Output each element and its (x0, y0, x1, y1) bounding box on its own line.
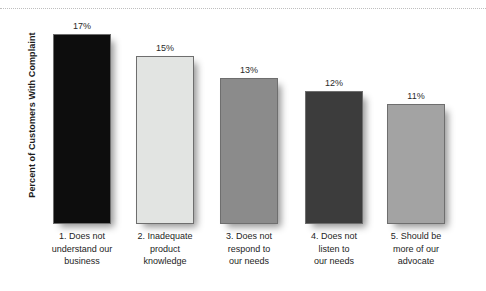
bar-group: 15% (136, 56, 194, 224)
bar-rect[interactable] (53, 34, 111, 224)
x-axis-labels: 1. Does not understand our business 2. I… (36, 230, 478, 288)
x-axis-label-1: 1. Does not understand our business (40, 230, 124, 268)
x-axis-label-line: our needs (292, 255, 376, 268)
bar-value-label: 11% (387, 91, 445, 104)
bar-chart: Percent of Customers With Complaint 17% … (0, 0, 486, 291)
x-axis-label-line: advocate (374, 255, 458, 268)
x-axis-label-line: 1. Does not (40, 230, 124, 243)
x-axis-label-5: 5. Should be more of our advocate (374, 230, 458, 268)
x-axis-label-line: knowledge (123, 255, 207, 268)
bar-group: 11% (387, 104, 445, 224)
bar-group: 13% (220, 78, 278, 224)
bar-rect[interactable] (136, 56, 194, 224)
bar-value-label: 12% (305, 78, 363, 91)
x-axis-label-line: listen to (292, 243, 376, 256)
x-axis-label-line: 3. Does not (207, 230, 291, 243)
x-axis-label-line: product (123, 243, 207, 256)
bar-value-label: 15% (136, 43, 194, 56)
x-axis-label-line: business (40, 255, 124, 268)
top-dotted-rule (0, 8, 486, 9)
x-axis-label-4: 4. Does not listen to our needs (292, 230, 376, 268)
bar-value-label: 13% (220, 65, 278, 78)
x-axis-label-line: 2. Inadequate (123, 230, 207, 243)
x-axis-label-3: 3. Does not respond to our needs (207, 230, 291, 268)
x-axis-label-line: 5. Should be (374, 230, 458, 243)
bar-group: 12% (305, 91, 363, 224)
bar-rect[interactable] (305, 91, 363, 224)
x-axis-label-line: understand our (40, 243, 124, 256)
bar-rect[interactable] (387, 104, 445, 224)
bar-group: 17% (53, 34, 111, 224)
x-axis-label-2: 2. Inadequate product knowledge (123, 230, 207, 268)
plot-area: 17% 15% 13% 12% 11% (36, 14, 478, 224)
bar-rect[interactable] (220, 78, 278, 224)
bar-value-label: 17% (53, 21, 111, 34)
x-axis-label-line: 4. Does not (292, 230, 376, 243)
x-axis-label-line: our needs (207, 255, 291, 268)
x-axis-label-line: more of our (374, 243, 458, 256)
x-axis-label-line: respond to (207, 243, 291, 256)
